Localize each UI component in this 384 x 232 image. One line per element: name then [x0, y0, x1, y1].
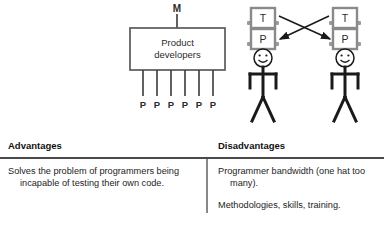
- eye-right-figure-right: [347, 54, 349, 56]
- product-developers-label-line1: Product: [161, 37, 194, 48]
- stick-figure-left: T P: [247, 8, 279, 121]
- diagram-area: M Product developers P P P P P P: [0, 0, 384, 128]
- hat-programmer-right-label: P: [341, 33, 348, 45]
- eye-left-figure-left: [259, 54, 261, 56]
- programmer-label-2: P: [154, 99, 161, 110]
- eye-right-figure-left: [341, 54, 343, 56]
- cell-advantages: Solves the problem of programmers being …: [0, 158, 207, 213]
- hat-tester-right-label: T: [342, 12, 349, 24]
- programmer-connector-lines: [143, 70, 213, 96]
- body-right-figure: [332, 67, 358, 121]
- programmer-label-1: P: [140, 99, 147, 110]
- programmer-label-4: P: [182, 99, 189, 110]
- head-left-figure: [254, 49, 272, 67]
- programmer-label-3: P: [168, 99, 175, 110]
- disadvantage-item-2: Methodologies, skills, training.: [218, 200, 378, 212]
- body-left-figure: [250, 67, 276, 121]
- programmer-label-5: P: [196, 99, 203, 110]
- programmer-label-6: P: [210, 99, 217, 110]
- column-header-advantages: Advantages: [0, 131, 207, 158]
- manager-label: M: [173, 3, 181, 14]
- hat-tester-left-label: T: [260, 12, 267, 24]
- disadvantage-item-1: Programmer bandwidth (one hat too many).: [218, 166, 378, 189]
- stick-figure-right: T P: [329, 8, 361, 121]
- hat-programmer-left-label: P: [259, 33, 266, 45]
- table-row: Solves the problem of programmers being …: [0, 158, 384, 213]
- eye-left-figure-right: [265, 54, 267, 56]
- table-header-row: Advantages Disadvantages: [0, 131, 384, 158]
- product-developers-label-line2: developers: [154, 49, 201, 60]
- org-diagram: M Product developers P P P P P P: [0, 0, 384, 128]
- head-right-figure: [336, 49, 354, 67]
- column-header-disadvantages: Disadvantages: [207, 131, 384, 158]
- advantage-item-1: Solves the problem of programmers being …: [8, 166, 194, 189]
- cell-disadvantages: Programmer bandwidth (one hat too many).…: [207, 158, 384, 213]
- advantages-disadvantages-table: Advantages Disadvantages Solves the prob…: [0, 131, 384, 213]
